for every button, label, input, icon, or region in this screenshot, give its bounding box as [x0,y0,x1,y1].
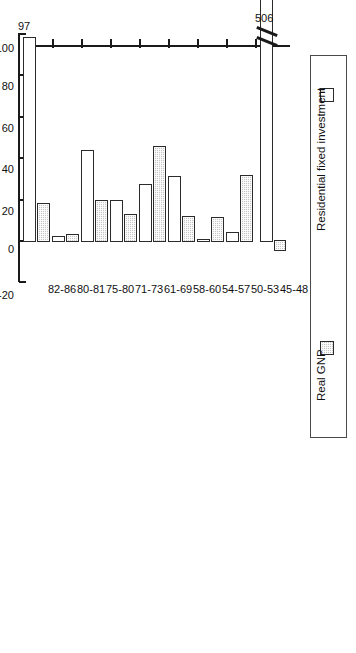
legend-label-real-gnp: Real GNP [315,349,327,401]
legend-label-residential-fixed-investment: Residential fixed investment [315,88,327,231]
category-tick-1 [256,39,258,48]
bar-gnp-54-57 [211,217,224,242]
bar-rfi-45-48 [260,0,273,242]
value-tick-100 [19,33,26,35]
category-label-45-48: 45-48 [280,283,308,295]
value-tick-label-100: 100 [0,42,14,54]
category-label-58-60: 58-60 [193,283,221,295]
category-label-54-57: 54-57 [222,283,250,295]
bar-rfi-58-60 [168,176,181,242]
category-tick-3 [198,39,200,48]
value-tick-label-0: 0 [8,243,14,255]
category-tick-4 [169,39,171,48]
bar-gnp-80-81 [66,234,79,242]
bar-gnp-61-69 [153,146,166,242]
plot-rotation-wrapper: 100 80 60 40 20 0 -20 506 [0,0,290,653]
category-label-61-69: 61-69 [164,283,192,295]
category-label-80-81: 80-81 [77,283,105,295]
category-label-71-73: 71-73 [135,283,163,295]
chart-figure: 100 80 60 40 20 0 -20 506 [0,0,356,653]
bar-rfi-71-73 [110,200,123,242]
bar-gnp-75-80 [95,200,108,242]
category-label-50-53: 50-53 [251,283,279,295]
bar-gnp-45-48 [274,240,286,251]
chart-legend: Residential fixed investment Real GNP [310,55,347,438]
category-label-82-86: 82-86 [48,283,76,295]
bar-gnp-71-73 [124,214,137,242]
bar-gnp-58-60 [182,216,195,242]
annotation-506: 506 [255,12,273,24]
category-tick-8 [53,39,55,48]
bar-rfi-50-53 [226,232,239,242]
bar-rfi-80-81 [52,236,65,242]
value-tick-neg20 [19,281,26,283]
bar-rfi-61-69 [139,184,152,242]
value-tick-label-40: 40 [2,163,14,175]
zero-baseline [34,45,290,47]
category-label-75-80: 75-80 [106,283,134,295]
bar-rfi-75-80 [81,150,94,242]
bar-gnp-82-86 [37,203,50,242]
value-tick-label-neg20: -20 [0,289,14,301]
category-tick-7 [82,39,84,48]
bar-gnp-50-53 [240,175,253,242]
value-tick-label-80: 80 [2,80,14,92]
bar-rfi-54-57 [197,239,210,242]
category-tick-5 [140,39,142,48]
plot-area: 100 80 60 40 20 0 -20 506 [0,0,290,653]
category-tick-6 [111,39,113,48]
bar-rfi-82-86 [23,37,36,242]
value-tick-label-20: 20 [2,205,14,217]
category-tick-2 [227,39,229,48]
annotation-97: 97 [18,20,30,32]
value-tick-label-60: 60 [2,122,14,134]
